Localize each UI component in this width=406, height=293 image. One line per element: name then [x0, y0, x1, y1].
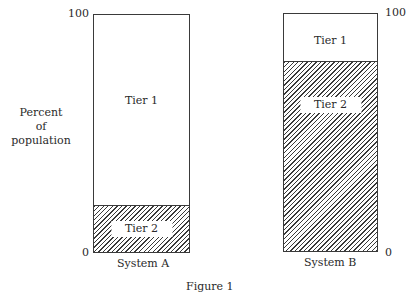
bar-system-b: Tier 1 Tier 2 [283, 13, 378, 252]
tick-right-0: 0 [385, 247, 392, 259]
bar-b-tier2-label: Tier 2 [300, 97, 361, 113]
bar-b-tier2-segment: Tier 2 [284, 61, 377, 251]
y-axis-label-line3: population [6, 134, 76, 148]
bar-a-tier1-label: Tier 1 [125, 95, 158, 107]
bar-a-tier2-label: Tier 2 [111, 221, 172, 237]
bar-a-tier2-segment: Tier 2 [94, 205, 189, 252]
tick-left-0: 0 [82, 247, 89, 259]
figure-caption: Figure 1 [186, 281, 234, 293]
bar-b-tier1-label: Tier 1 [314, 35, 347, 47]
bar-a-tier1-segment: Tier 1 [94, 15, 189, 205]
category-label-system-a: System A [117, 258, 169, 270]
y-axis-label-line2: of [6, 120, 76, 134]
y-axis-label: Percent of population [6, 106, 76, 148]
tick-left-100: 100 [68, 8, 89, 20]
bar-system-a: Tier 1 Tier 2 [93, 14, 190, 253]
tick-right-100: 100 [385, 7, 406, 19]
category-label-system-b: System B [304, 257, 356, 269]
bar-b-tier1-segment: Tier 1 [284, 14, 377, 61]
y-axis-label-line1: Percent [6, 106, 76, 120]
